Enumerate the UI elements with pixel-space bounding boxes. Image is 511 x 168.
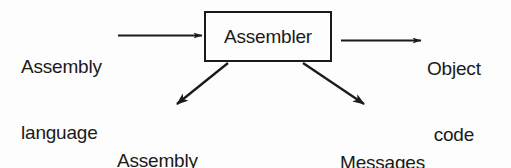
- output-label-messages: Messages: [340, 108, 425, 168]
- output-label-assembly-listing: Assembly listing: [117, 106, 198, 168]
- arrow-assembler-to-messages: [303, 63, 364, 104]
- input-label-assembly-language-line1: Assembly: [21, 56, 102, 78]
- output-label-object-code: Object code: [427, 14, 481, 168]
- input-label-assembly-language: Assembly language: [21, 12, 102, 168]
- arrow-assembler-to-assembly-listing: [177, 63, 228, 104]
- output-label-assembly-listing-line1: Assembly: [117, 150, 198, 168]
- input-label-assembly-language-line2: language: [21, 122, 102, 144]
- output-label-object-code-line2: code: [427, 124, 481, 146]
- assembler-process-box: Assembler: [204, 11, 332, 62]
- assembler-process-box-label: Assembler: [224, 26, 312, 47]
- assembler-flow-diagram: Assembly language Assembler Object code …: [0, 0, 511, 168]
- output-label-messages-line1: Messages: [340, 152, 425, 168]
- output-label-object-code-line1: Object: [427, 58, 481, 80]
